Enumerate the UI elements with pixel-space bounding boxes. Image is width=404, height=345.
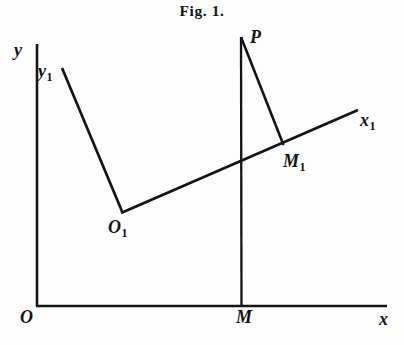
ordinate-mp-line: [241, 37, 242, 306]
point-p-label: P: [250, 28, 261, 46]
y1-axis-label: y1: [38, 62, 53, 83]
point-o1-label: O1: [108, 218, 128, 239]
m1-subscript: 1: [300, 160, 306, 174]
point-m-label: M: [236, 308, 252, 326]
y1-subscript: 1: [47, 70, 53, 84]
figure-container: Fig. 1. y y1 P x1 M1 O1 O M x: [0, 0, 404, 345]
perpendicular-pm1-line: [241, 37, 284, 145]
o1-subscript: 1: [122, 226, 128, 240]
figure-drawing: [0, 0, 404, 345]
origin-o-label: O: [20, 308, 33, 326]
y-axis-label: y: [14, 41, 22, 59]
x1-subscript: 1: [370, 119, 376, 133]
point-m1-label: M1: [283, 152, 306, 173]
x-axis-label: x: [379, 310, 388, 328]
y1-axis-line: [62, 68, 123, 213]
x1-axis-label: x1: [360, 111, 376, 132]
x1-axis-line: [121, 110, 358, 213]
